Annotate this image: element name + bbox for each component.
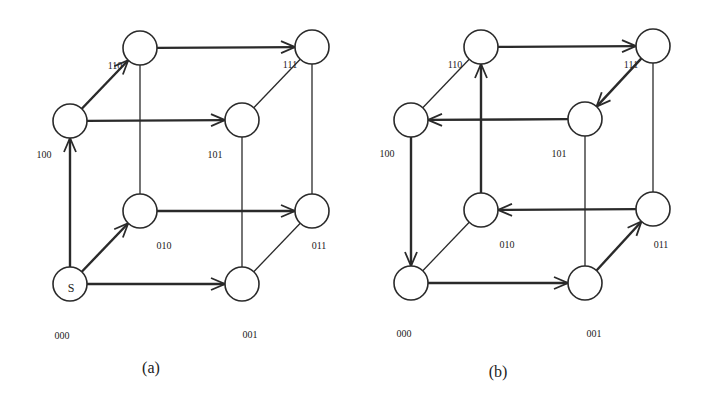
node-010 [464, 193, 498, 227]
node-000 [394, 266, 428, 300]
arrow-001-011 [597, 222, 642, 271]
node-010 [123, 194, 157, 228]
caption-b: (b) [489, 363, 508, 381]
node-label-001: 001 [243, 329, 258, 340]
node-label-110: 110 [108, 60, 123, 71]
arrow-011-010 [498, 209, 636, 210]
arrow-110-111 [157, 47, 295, 48]
arrow-100-101 [87, 120, 225, 121]
edge-000-010 [423, 222, 469, 270]
node-label-101: 101 [208, 149, 223, 160]
arrow-110-111 [498, 46, 636, 47]
node-100 [53, 104, 87, 138]
node-110 [123, 31, 157, 65]
node-label-011: 011 [654, 239, 669, 250]
node-label-011: 011 [312, 240, 327, 251]
node-label-001: 001 [587, 328, 602, 339]
node-label-100: 100 [37, 149, 52, 160]
node-label-110: 110 [448, 59, 463, 70]
node-101 [225, 103, 259, 137]
hypercube-diagram [0, 0, 703, 401]
panel-a [53, 30, 329, 301]
node-001 [568, 266, 602, 300]
caption-a: (a) [142, 359, 160, 377]
node-100 [394, 103, 428, 137]
node-110 [464, 30, 498, 64]
panel-b [394, 29, 670, 300]
node-label-101: 101 [552, 148, 567, 159]
start-node-symbol: S [68, 281, 75, 296]
node-011 [295, 194, 329, 228]
node-label-000: 000 [397, 328, 412, 339]
node-111 [295, 30, 329, 64]
node-label-010: 010 [500, 239, 515, 250]
node-101 [568, 102, 602, 136]
node-label-111: 111 [283, 59, 297, 70]
arrow-000-010 [82, 223, 128, 271]
node-111 [636, 29, 670, 63]
edge-001-011 [254, 223, 300, 271]
node-label-100: 100 [380, 148, 395, 159]
node-label-000: 000 [55, 330, 70, 341]
node-011 [636, 192, 670, 226]
arrow-101-100 [428, 119, 568, 120]
node-001 [225, 267, 259, 301]
node-label-010: 010 [157, 240, 172, 251]
node-label-111: 111 [624, 59, 638, 70]
